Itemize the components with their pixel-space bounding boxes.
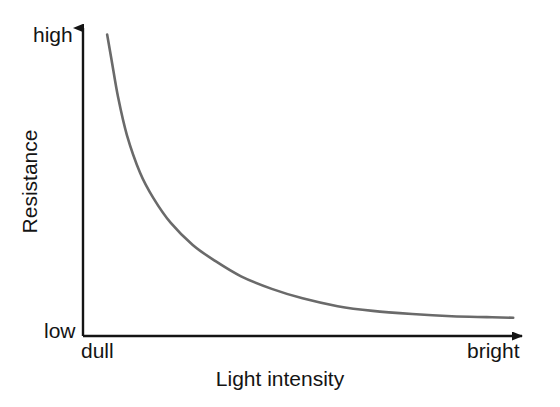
- figure-container: high low dull bright Light intensity Res…: [0, 0, 560, 407]
- y-axis-tick-low: low: [44, 320, 76, 341]
- x-axis-tick-bright: bright: [467, 340, 520, 361]
- y-axis-title: Resistance: [19, 112, 40, 252]
- x-axis-title: Light intensity: [0, 368, 560, 389]
- resistance-curve: [107, 35, 513, 318]
- x-axis-tick-dull: dull: [81, 340, 114, 361]
- y-axis-tick-high: high: [33, 24, 73, 45]
